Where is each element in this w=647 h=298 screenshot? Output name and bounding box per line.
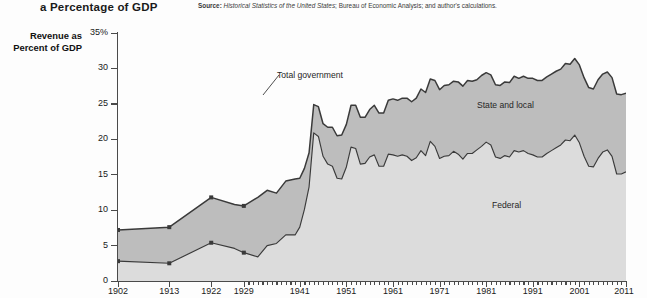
y-label-5: 5: [82, 240, 108, 250]
x-tick-1974: [454, 282, 455, 285]
y-label-30: 30: [82, 62, 108, 72]
x-tick-1985: [505, 282, 506, 285]
x-label-1922: 1922: [201, 286, 221, 296]
x-tick-1934: [267, 282, 268, 285]
y-tick-25: [111, 103, 118, 104]
x-tick-1944: [314, 282, 315, 285]
x-tick-2003: [589, 282, 590, 285]
x-tick-1930: [248, 282, 249, 285]
x-tick-1976: [463, 282, 464, 285]
x-tick-1975: [458, 282, 459, 285]
x-tick-1957: [374, 282, 375, 285]
x-label-1929: 1929: [234, 286, 254, 296]
y-tick-5: [111, 245, 118, 246]
x-tick-1990: [528, 282, 529, 285]
y-label-0: 0: [82, 275, 108, 285]
marker-total-1922: [209, 195, 213, 199]
x-tick-1998: [565, 282, 566, 285]
source-rest: ; Bureau of Economic Analysis; and autho…: [335, 2, 497, 9]
marker-federal-1913: [167, 261, 171, 265]
x-tick-1962: [398, 282, 399, 285]
x-tick-1977: [468, 282, 469, 285]
x-label-1991: 1991: [523, 286, 543, 296]
x-tick-1995: [551, 282, 552, 285]
x-tick-1935: [272, 282, 273, 285]
x-tick-2005: [598, 282, 599, 285]
x-tick-1960: [388, 282, 389, 285]
x-tick-1956: [370, 282, 371, 285]
x-tick-1968: [426, 282, 427, 285]
x-tick-1982: [491, 282, 492, 285]
x-tick-1954: [360, 282, 361, 285]
x-tick-1939: [290, 282, 291, 285]
x-tick-2009: [617, 282, 618, 285]
x-tick-1978: [472, 282, 473, 285]
x-label-1902: 1902: [108, 286, 128, 296]
y-axis-labels: 05101520253035%: [78, 0, 108, 298]
x-tick-1996: [556, 282, 557, 285]
x-tick-1989: [523, 282, 524, 285]
plot-area: [118, 33, 626, 281]
x-tick-1983: [496, 282, 497, 285]
x-tick-1953: [356, 282, 357, 285]
x-label-2001: 2001: [569, 286, 589, 296]
x-tick-2007: [607, 282, 608, 285]
x-tick-2000: [575, 282, 576, 285]
marker-federal-1929: [242, 251, 246, 255]
x-tick-1988: [519, 282, 520, 285]
y-label-25: 25: [82, 98, 108, 108]
x-tick-1947: [328, 282, 329, 285]
x-label-1951: 1951: [336, 286, 356, 296]
x-tick-1969: [430, 282, 431, 285]
y-tick-0: [111, 281, 118, 282]
marker-total-1913: [167, 225, 171, 229]
x-tick-1933: [262, 282, 263, 285]
x-label-2011: 2011: [614, 286, 633, 296]
x-tick-1992: [537, 282, 538, 285]
x-tick-1997: [561, 282, 562, 285]
x-tick-1972: [444, 282, 445, 285]
x-tick-1943: [309, 282, 310, 285]
x-tick-1937: [281, 282, 282, 285]
y-label-15: 15: [82, 169, 108, 179]
y-label-35: 35%: [82, 27, 108, 37]
x-tick-2010: [621, 282, 622, 285]
x-tick-1980: [482, 282, 483, 285]
x-tick-1965: [412, 282, 413, 285]
x-tick-1945: [318, 282, 319, 285]
x-tick-1973: [449, 282, 450, 285]
x-tick-1966: [416, 282, 417, 285]
x-tick-1952: [351, 282, 352, 285]
marker-total-1902: [118, 228, 120, 232]
x-tick-1950: [342, 282, 343, 285]
annotation-total-government: Total government: [277, 70, 343, 80]
x-tick-1994: [547, 282, 548, 285]
x-label-1961: 1961: [383, 286, 403, 296]
x-tick-1931: [253, 282, 254, 285]
chart-figure: a Percentage of GDP Source: Historical S…: [0, 0, 647, 298]
x-tick-1948: [332, 282, 333, 285]
x-tick-1967: [421, 282, 422, 285]
x-tick-1993: [542, 282, 543, 285]
annotation-state-and-local: State and local: [477, 100, 534, 110]
x-tick-1938: [286, 282, 287, 285]
x-tick-1949: [337, 282, 338, 285]
area-chart-svg: [118, 33, 626, 281]
x-label-1941: 1941: [290, 286, 310, 296]
x-tick-1979: [477, 282, 478, 285]
x-tick-1936: [276, 282, 277, 285]
x-tick-2006: [603, 282, 604, 285]
x-tick-2002: [584, 282, 585, 285]
source-publication: Historical Statistics of the United Stat…: [224, 2, 336, 9]
x-tick-1963: [402, 282, 403, 285]
x-tick-1964: [407, 282, 408, 285]
y-tick-35: [111, 33, 118, 34]
x-tick-1959: [384, 282, 385, 285]
x-label-1981: 1981: [476, 286, 496, 296]
y-tick-20: [111, 139, 118, 140]
y-tick-30: [111, 68, 118, 69]
x-tick-1946: [323, 282, 324, 285]
source-note: Source: Historical Statistics of the Uni…: [198, 2, 497, 9]
marker-federal-1922: [209, 241, 213, 245]
y-label-20: 20: [82, 133, 108, 143]
